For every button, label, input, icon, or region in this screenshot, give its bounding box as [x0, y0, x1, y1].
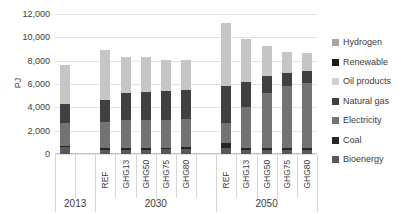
bar-segment [262, 46, 272, 76]
bar-segment [181, 60, 191, 90]
legend-label: Electricity [343, 116, 382, 125]
group-separator [317, 155, 318, 212]
bar-segment [60, 104, 70, 122]
stacked-bar-chart: PJ 02,0004,0006,0008,00010,00012,000 REF… [0, 0, 409, 214]
bar-segment [302, 71, 312, 83]
bar-segment [141, 120, 151, 148]
legend-swatch-icon [332, 137, 339, 144]
bar-segment [262, 150, 272, 154]
legend-swatch-icon [332, 117, 339, 124]
bar-segment [282, 52, 292, 73]
category-tick [257, 155, 258, 198]
y-axis-tick-label: 8,000 [27, 56, 50, 65]
category-tick [176, 155, 177, 198]
legend-label: Coal [343, 136, 362, 145]
legend-item-natural-gas[interactable]: Natural gas [332, 92, 409, 112]
chart-legend: HydrogenRenewableOil productsNatural gas… [332, 33, 409, 170]
bar-segment [221, 123, 231, 144]
category-tick [277, 155, 278, 198]
stacked-bar [100, 50, 110, 154]
legend-item-hydrogen[interactable]: Hydrogen [332, 33, 409, 53]
group-label-2030: 2030 [95, 199, 216, 209]
y-axis-tick-label: 2,000 [27, 126, 50, 135]
legend-swatch-icon [332, 156, 339, 163]
bar-segment [100, 122, 110, 148]
bar-segment [181, 119, 191, 147]
category-label-ghg50: GHG50 [141, 159, 150, 188]
y-axis-tick-labels: 02,0004,0006,0008,00010,00012,000 [0, 14, 50, 154]
bar-segment [221, 23, 231, 86]
y-axis-tick-label: 10,000 [22, 33, 50, 42]
category-label-ref: REF [101, 171, 110, 188]
category-label-ghg80: GHG80 [182, 159, 191, 188]
legend-swatch-icon [332, 39, 339, 46]
legend-label: Natural gas [343, 97, 389, 106]
stacked-bar [161, 60, 171, 154]
bar-segment [241, 82, 251, 108]
legend-swatch-icon [332, 98, 339, 105]
category-label-ghg75: GHG75 [161, 159, 170, 188]
bars-container [55, 14, 317, 154]
legend-item-renewable[interactable]: Renewable [332, 53, 409, 73]
legend-label: Bioenergy [343, 155, 384, 164]
bar-segment [282, 73, 292, 86]
stacked-bar [262, 46, 272, 154]
category-label-ghg50: GHG50 [262, 159, 271, 188]
bar-segment [121, 150, 131, 154]
category-label-ghg75: GHG75 [282, 159, 291, 188]
bar-segment [302, 53, 312, 71]
category-tick [75, 155, 76, 198]
legend-item-electricity[interactable]: Electricity [332, 111, 409, 131]
bar-segment [100, 150, 110, 154]
bar-segment [60, 123, 70, 146]
legend-item-coal[interactable]: Coal [332, 131, 409, 151]
bar-segment [181, 90, 191, 119]
y-axis-tick-label: 0 [45, 150, 50, 159]
legend-item-bioenergy[interactable]: Bioenergy [332, 150, 409, 170]
bar-segment [121, 57, 131, 93]
category-axis: REFGHG13GHG50GHG75GHG80REFGHG13GHG50GHG7… [55, 155, 317, 214]
bar-segment [282, 150, 292, 154]
category-tick [136, 155, 137, 198]
stacked-bar [282, 52, 292, 154]
legend-label: Hydrogen [343, 38, 382, 47]
bar-segment [141, 92, 151, 119]
bar-segment [241, 107, 251, 148]
group-label-2013: 2013 [55, 199, 95, 209]
legend-swatch-icon [332, 59, 339, 66]
stacked-bar [221, 23, 231, 154]
bar-segment [100, 50, 110, 100]
bar-segment [161, 91, 171, 120]
category-tick [297, 155, 298, 198]
bar-segment [161, 149, 171, 154]
bar-segment [141, 150, 151, 154]
stacked-bar [121, 57, 131, 154]
category-label-ghg13: GHG13 [121, 159, 130, 188]
bar-segment [181, 149, 191, 154]
bar-segment [60, 65, 70, 104]
category-label-ghg80: GHG80 [302, 159, 311, 188]
category-tick [156, 155, 157, 198]
stacked-bar [181, 60, 191, 154]
legend-swatch-icon [332, 78, 339, 85]
y-axis-tick-label: 6,000 [27, 80, 50, 89]
bar-segment [302, 150, 312, 154]
stacked-bar [141, 57, 151, 154]
bar-segment [282, 86, 292, 148]
y-axis-tick-label: 4,000 [27, 103, 50, 112]
bar-segment [302, 83, 312, 148]
category-label-ghg13: GHG13 [242, 159, 251, 188]
stacked-bar [241, 39, 251, 154]
category-label-ref: REF [222, 171, 231, 188]
bar-segment [121, 120, 131, 148]
bar-segment [161, 120, 171, 148]
category-tick [236, 155, 237, 198]
bar-segment [121, 93, 131, 120]
category-tick [115, 155, 116, 198]
bar-segment [161, 60, 171, 92]
legend-item-oil-products[interactable]: Oil products [332, 72, 409, 92]
stacked-bar [302, 53, 312, 154]
category-tick [196, 155, 197, 198]
bar-segment [262, 93, 272, 148]
bar-segment [241, 150, 251, 154]
